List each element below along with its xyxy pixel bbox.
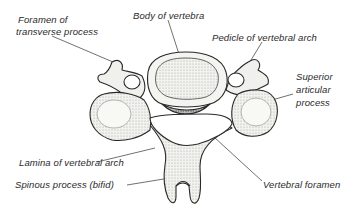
label-vertebral-foramen: Vertebral foramen <box>263 180 340 191</box>
vertebra-diagram: Foramen of transverse process Body of ve… <box>0 0 363 217</box>
label-lamina: Lamina of vertebral arch <box>19 158 124 169</box>
label-superior-line3: process <box>296 98 330 109</box>
label-body-of-vertebra: Body of vertebra <box>133 11 204 22</box>
label-foramen-transverse-line2: transverse process <box>16 27 98 38</box>
label-superior-line2: articular <box>296 85 331 96</box>
label-spinous-process: Spinous process (bifid) <box>15 180 114 191</box>
label-pedicle: Pedicle of vertebral arch <box>212 33 317 44</box>
label-superior-line1: Superior <box>296 72 333 83</box>
vertebra-shape <box>90 52 277 203</box>
label-foramen-transverse-line1: Foramen of <box>18 15 68 26</box>
